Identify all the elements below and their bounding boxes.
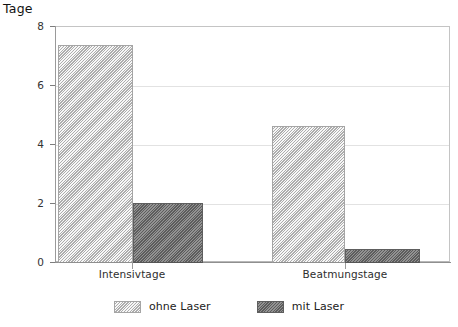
y-tick-mark-6 [50, 85, 55, 86]
y-tick-mark-4 [50, 144, 55, 145]
y-tick-label-8: 8 [10, 21, 44, 32]
bar-chart: Tage 8 6 4 2 0 Intensivtage Beatmungstag… [0, 0, 458, 327]
chart-legend: ohne Laser mit Laser [0, 300, 458, 313]
legend-swatch-icon-mit-laser [257, 301, 284, 313]
bar-beatmungstage-mit-laser [345, 249, 420, 263]
x-axis-label-intensivtage: Intensivtage [99, 268, 165, 280]
chart-title: Tage [3, 1, 33, 16]
y-tick-label-2: 2 [10, 198, 44, 209]
y-tick-label-4: 4 [10, 139, 44, 150]
legend-entry-mit-laser: mit Laser [257, 300, 344, 313]
y-tick-label-0: 0 [10, 257, 44, 268]
legend-label-ohne-laser: ohne Laser [149, 300, 211, 313]
y-axis-line [55, 26, 56, 263]
bar-beatmungstage-ohne-laser [272, 126, 345, 263]
legend-swatch-icon-ohne-laser [114, 301, 141, 313]
y-tick-mark-2 [50, 203, 55, 204]
bar-intensivtage-ohne-laser [58, 45, 133, 263]
bar-intensivtage-mit-laser [133, 203, 203, 263]
legend-label-mit-laser: mit Laser [292, 300, 344, 313]
y-tick-label-6: 6 [10, 80, 44, 91]
x-axis-label-beatmungstage: Beatmungstage [303, 268, 388, 280]
y-tick-mark-8 [50, 26, 55, 27]
legend-entry-ohne-laser: ohne Laser [114, 300, 211, 313]
